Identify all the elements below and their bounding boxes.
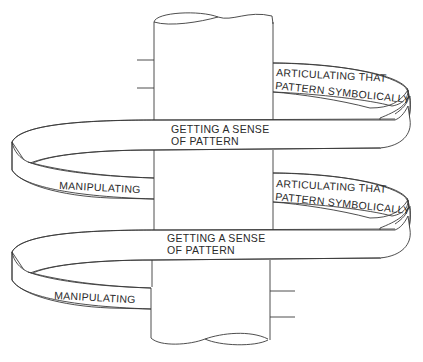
label-sense-2-line1: GETTING A SENSE: [167, 232, 265, 244]
label-sense-1-line1: GETTING A SENSE: [171, 123, 269, 135]
label-sense-1-line2: OF PATTERN: [171, 135, 239, 147]
spiral-diagram: ARTICULATING THAT PATTERN SYMBOLICALLY G…: [0, 0, 423, 362]
label-sense-2-line2: OF PATTERN: [167, 244, 235, 256]
pole: [137, 13, 295, 345]
